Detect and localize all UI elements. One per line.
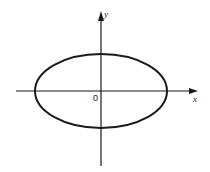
x-axis-label: x bbox=[192, 94, 197, 104]
origin-label: 0 bbox=[93, 93, 98, 103]
y-axis bbox=[98, 11, 104, 166]
x-axis bbox=[16, 88, 198, 94]
y-axis-label: y bbox=[103, 9, 108, 19]
ellipse-diagram: y x 0 bbox=[0, 0, 210, 172]
